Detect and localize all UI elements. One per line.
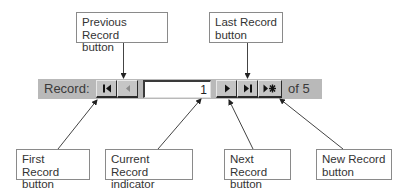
callout-leader-lines — [0, 0, 415, 193]
leader-next — [229, 100, 253, 149]
leader-first — [58, 100, 97, 149]
leader-current — [158, 99, 201, 149]
leader-new — [280, 99, 343, 149]
